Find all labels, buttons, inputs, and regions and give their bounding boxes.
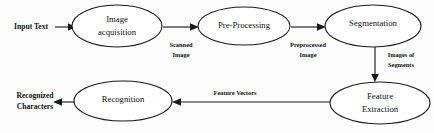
feature-extraction-label-line2: Extraction bbox=[362, 104, 399, 114]
preprocessed-image-line1: Preprocessed bbox=[290, 41, 326, 48]
node-image-acquisition[interactable]: Image acquisition bbox=[72, 5, 162, 47]
node-segmentation[interactable]: Segmentation bbox=[325, 5, 421, 47]
images-of-segments-line1: Images of bbox=[388, 51, 415, 58]
images-of-segments-line2: Segments bbox=[388, 61, 414, 68]
feature-vectors-label: Feature Vectors bbox=[213, 89, 257, 96]
edge-preprocessing-to-segmentation bbox=[291, 23, 326, 31]
edge-label-preprocessed-image: Preprocessed Image bbox=[290, 41, 326, 58]
preprocessed-image-line2: Image bbox=[299, 51, 316, 58]
edge-feature-extraction-to-recognition bbox=[172, 98, 330, 106]
segmentation-label: Segmentation bbox=[349, 18, 397, 28]
flowchart-canvas: Image acquisition Pre-Processing Segment… bbox=[0, 0, 434, 133]
image-acquisition-shape[interactable] bbox=[72, 5, 162, 47]
scanned-image-line2: Image bbox=[172, 51, 189, 58]
feature-extraction-shape[interactable] bbox=[330, 82, 430, 124]
pre-processing-label: Pre-Processing bbox=[218, 20, 271, 30]
node-feature-extraction[interactable]: Feature Extraction bbox=[330, 82, 430, 124]
scanned-image-line1: Scanned bbox=[169, 41, 193, 48]
edge-label-scanned-image: Scanned Image bbox=[169, 41, 193, 58]
edge-recognition-to-output bbox=[53, 98, 74, 106]
io-label-input-text: Input Text bbox=[14, 22, 48, 31]
input-text-label: Input Text bbox=[14, 22, 48, 31]
recognition-label: Recognition bbox=[102, 94, 145, 104]
image-acquisition-label-line1: Image bbox=[106, 14, 128, 24]
node-recognition[interactable]: Recognition bbox=[74, 81, 172, 121]
io-label-recognized-characters: Recognized Characters bbox=[16, 91, 54, 111]
node-pre-processing[interactable]: Pre-Processing bbox=[198, 7, 290, 45]
ocr-pipeline-diagram: Image acquisition Pre-Processing Segment… bbox=[0, 0, 434, 133]
edge-label-images-of-segments: Images of Segments bbox=[388, 51, 415, 68]
edge-label-feature-vectors: Feature Vectors bbox=[213, 89, 257, 96]
recognized-characters-line1: Recognized bbox=[16, 91, 54, 100]
image-acquisition-label-line2: acquisition bbox=[98, 27, 137, 37]
edge-segmentation-to-feature-extraction bbox=[371, 47, 379, 82]
recognized-characters-line2: Characters bbox=[17, 102, 53, 111]
edge-acquisition-to-preprocessing bbox=[163, 23, 199, 31]
feature-extraction-label-line1: Feature bbox=[367, 91, 393, 101]
